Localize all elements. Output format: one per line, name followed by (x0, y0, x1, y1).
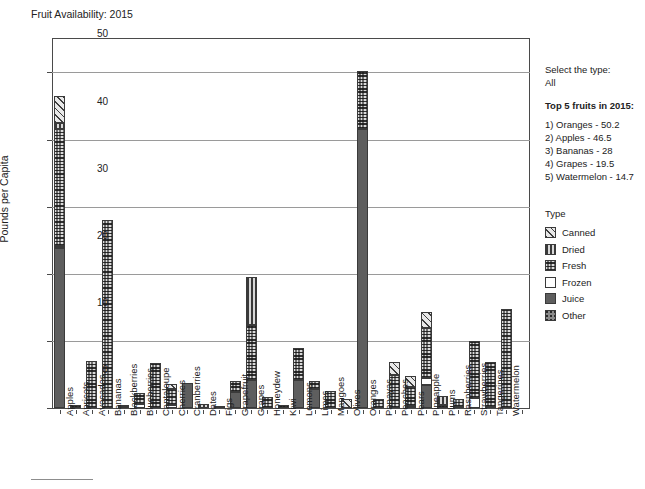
xtick-label-papayas: Papayas (383, 379, 394, 416)
bar-segment-apples-dried[interactable] (54, 123, 65, 129)
xtick-mark-blueberries (140, 410, 141, 414)
xtick-label-bananas: Bananas (112, 378, 123, 416)
bar-segment-grapes-fresh[interactable] (246, 325, 257, 380)
gridline-y-30 (52, 207, 530, 208)
xtick-label-cherries: Cherries (176, 380, 187, 416)
legend-rows: CannedDriedFreshFrozenJuiceOther (545, 225, 645, 323)
xtick-label-honeydew: Honeydew (271, 371, 282, 416)
plot-area: Pounds per Capita (52, 38, 530, 409)
legend: Type CannedDriedFreshFrozenJuiceOther (545, 208, 645, 324)
ytick-mark-30 (47, 207, 52, 208)
xtick-label-plums: Plums (446, 390, 457, 416)
legend-title: Type (545, 208, 645, 219)
bar-segment-oranges-juice[interactable] (357, 129, 368, 408)
bar-apples[interactable] (54, 96, 65, 408)
xtick-mark-peaches (395, 410, 396, 414)
xtick-label-olives: Olives (351, 390, 362, 416)
xtick-mark-cantaloupe (156, 410, 157, 414)
bar-segment-lemons-fresh[interactable] (293, 348, 304, 380)
bottom-rule (31, 479, 93, 480)
xtick-label-cantaloupe: Cantaloupe (160, 367, 171, 416)
bar-segment-apples-juice[interactable] (54, 248, 65, 408)
select-type-value[interactable]: All (545, 77, 645, 90)
bar-segment-apples-fresh[interactable] (54, 129, 65, 246)
bar-segment-grapes-dried[interactable] (246, 277, 257, 325)
xtick-label-oranges: Oranges (367, 380, 378, 416)
xtick-mark-limes (315, 410, 316, 414)
xtick-label-raspberries: Raspberries (462, 365, 473, 416)
legend-item-fresh[interactable]: Fresh (545, 258, 645, 273)
legend-item-other[interactable]: Other (545, 308, 645, 323)
ytick-label-50: 50 (78, 28, 108, 39)
xtick-mark-grapes (251, 410, 252, 414)
bar-segment-oranges-fresh[interactable] (357, 71, 368, 129)
legend-label-dried: Dried (562, 244, 585, 255)
xtick-label-grapes: Grapes (255, 385, 266, 416)
bar-segment-apples-canned[interactable] (54, 96, 65, 123)
ytick-label-40: 40 (78, 96, 108, 107)
ytick-mark-10 (47, 341, 52, 342)
xtick-mark-mangoes (331, 410, 332, 414)
xtick-label-apples: Apples (64, 387, 75, 416)
xtick-mark-blackberries (124, 410, 125, 414)
xtick-label-peaches: Peaches (399, 379, 410, 416)
legend-item-juice[interactable]: Juice (545, 291, 645, 306)
legend-label-other: Other (562, 310, 586, 321)
xtick-mark-olives (347, 410, 348, 414)
xtick-mark-pears (411, 410, 412, 414)
legend-swatch-other-icon (545, 310, 556, 321)
xtick-label-blueberries: Blueberries (144, 368, 155, 416)
xtick-mark-strawberries (474, 410, 475, 414)
xtick-label-limes: Limes (319, 391, 330, 416)
legend-item-dried[interactable]: Dried (545, 242, 645, 257)
xtick-mark-plums (442, 410, 443, 414)
top5-item-5: 5) Watermelon - 14.7 (545, 171, 645, 184)
top5-item-2: 2) Apples - 46.5 (545, 132, 645, 145)
side-panel: Select the type: All Top 5 fruits in 201… (545, 64, 645, 184)
xtick-mark-figs (219, 410, 220, 414)
gridline-y-40 (52, 140, 530, 141)
xtick-mark-tangerines (490, 410, 491, 414)
xtick-mark-cherries (172, 410, 173, 414)
bar-segment-apples-frozen[interactable] (54, 246, 65, 249)
xtick-label-kiwi: Kiwi (287, 399, 298, 416)
xtick-label-mangoes: Mangoes (335, 377, 346, 416)
legend-label-canned: Canned (562, 227, 595, 238)
xtick-label-pears: Pears (415, 391, 426, 416)
xtick-mark-bananas (108, 410, 109, 414)
legend-item-frozen[interactable]: Frozen (545, 275, 645, 290)
xtick-label-figs: Figs (223, 398, 234, 416)
legend-swatch-frozen-icon (545, 277, 556, 288)
ytick-label-10: 10 (78, 297, 108, 308)
bar-segment-peaches-canned[interactable] (389, 362, 400, 375)
bar-oranges[interactable] (357, 71, 368, 408)
legend-label-fresh: Fresh (562, 260, 586, 271)
legend-swatch-canned-icon (545, 227, 556, 238)
xtick-label-blackberries: Blackberries (128, 364, 139, 416)
top5-item-4: 4) Grapes - 19.5 (545, 158, 645, 171)
xtick-label-tangerines: Tangerines (494, 370, 505, 416)
xtick-mark-avocados (92, 410, 93, 414)
xtick-mark-pineapple (426, 410, 427, 414)
xtick-label-dates: Dates (207, 391, 218, 416)
y-axis-title: Pounds per Capita (0, 129, 10, 269)
legend-label-juice: Juice (562, 293, 584, 304)
ytick-mark-50 (47, 72, 52, 73)
select-type-label: Select the type: (545, 64, 645, 77)
xtick-label-avocados: Avocados (96, 374, 107, 416)
ytick-mark-40 (47, 140, 52, 141)
top5-heading: Top 5 fruits in 2015: (545, 100, 645, 113)
xtick-mark-raspberries (458, 410, 459, 414)
legend-label-frozen: Frozen (562, 277, 592, 288)
bar-segment-pineapple-canned[interactable] (421, 312, 432, 328)
xtick-mark-apples (60, 410, 61, 414)
xtick-mark-lemons (299, 410, 300, 414)
xtick-mark-dates (203, 410, 204, 414)
legend-item-canned[interactable]: Canned (545, 225, 645, 240)
ytick-mark-0 (47, 408, 52, 409)
top5-item-1: 1) Oranges - 50.2 (545, 119, 645, 132)
legend-swatch-juice-icon (545, 293, 556, 304)
xtick-label-apricots: Apricots (80, 382, 91, 416)
bar-segment-pineapple-fresh[interactable] (421, 328, 432, 378)
xtick-mark-kiwi (283, 410, 284, 414)
